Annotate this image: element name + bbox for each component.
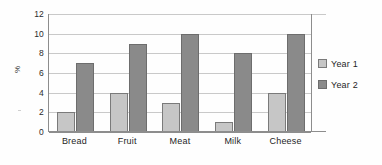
- y-axis-tick-labels: 024681012: [26, 14, 44, 132]
- bar: [234, 53, 252, 132]
- bar-chart-figure: % 024681012 BreadFruitMeatMilkCheese Yea…: [0, 0, 382, 165]
- legend-item[interactable]: Year 2: [318, 79, 358, 90]
- bar: [110, 93, 128, 132]
- bar: [57, 112, 75, 132]
- y-tick-label-0: 0: [28, 127, 44, 137]
- legend-label: Year 1: [331, 59, 358, 69]
- y-tick-label-6: 6: [28, 68, 44, 78]
- legend-label: Year 2: [331, 80, 358, 90]
- bar: [268, 93, 286, 132]
- bar: [129, 44, 147, 133]
- y-tick-label-8: 8: [28, 48, 44, 58]
- legend-swatch-icon: [318, 80, 327, 89]
- bar-group: [102, 14, 155, 132]
- y-tick-label-12: 12: [28, 9, 44, 19]
- y-tick-label-4: 4: [28, 88, 44, 98]
- x-tick-label: Milk: [224, 136, 241, 146]
- legend-item[interactable]: Year 1: [318, 58, 358, 69]
- bar-group: [155, 14, 208, 132]
- bar: [181, 34, 199, 132]
- x-axis-baseline: [48, 131, 326, 132]
- x-tick-label: Cheese: [269, 136, 301, 146]
- y-axis-title: %: [13, 66, 22, 73]
- x-tick-label: Bread: [62, 136, 87, 146]
- x-tick-label: Fruit: [118, 136, 137, 146]
- y-tick-label-10: 10: [28, 29, 44, 39]
- y-tick-label-2: 2: [28, 107, 44, 117]
- legend: Year 1Year 2: [318, 58, 358, 100]
- bar-group: [260, 14, 313, 132]
- gridline-0: [49, 132, 311, 133]
- scan-artifact: [18, 110, 21, 111]
- bar: [76, 63, 94, 132]
- legend-swatch-icon: [318, 59, 327, 68]
- bar-group: [49, 14, 102, 132]
- bar: [287, 34, 305, 132]
- x-tick-label: Meat: [170, 136, 191, 146]
- bar: [162, 103, 180, 133]
- bar-group: [207, 14, 260, 132]
- plot-area: [48, 14, 312, 132]
